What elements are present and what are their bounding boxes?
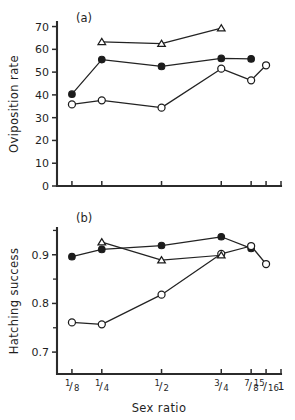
fraction-denominator: 8 <box>74 383 79 393</box>
series-line-open-circle <box>72 246 266 324</box>
x-tick-label-0: 1/8 <box>65 378 79 393</box>
data-point-filled-circle <box>218 55 225 62</box>
data-point-filled-circle <box>69 91 76 98</box>
series-open-triangle <box>98 25 225 47</box>
y-tick-label: 70 <box>35 21 49 34</box>
y-tick-label: 60 <box>35 43 49 56</box>
axis-lines <box>57 22 281 186</box>
data-point-open-circle <box>98 97 105 104</box>
y-tick-label: 20 <box>35 134 49 147</box>
x-tick-label-3: 3/4 <box>214 378 228 393</box>
data-point-open-circle <box>263 62 270 69</box>
chart-svg: 010203040506070(a)Oviposition rate0.70.8… <box>0 0 295 420</box>
fraction-denominator: 4 <box>104 383 109 393</box>
panel-label-a: (a) <box>76 11 92 25</box>
series-open-circle <box>68 243 269 328</box>
y-axis-title-b: Hatching success <box>7 248 21 355</box>
data-point-open-circle <box>263 261 270 268</box>
x-tick-label-2: 1/2 <box>155 378 169 393</box>
series-filled-circle <box>69 55 255 97</box>
data-point-open-circle <box>248 77 255 84</box>
y-tick-label: 0.9 <box>32 249 50 262</box>
y-axis-title-a: Oviposition rate <box>7 55 21 153</box>
y-tick-label: 0.8 <box>32 297 50 310</box>
y-tick-label: 40 <box>35 89 49 102</box>
fraction-slash: / <box>159 380 163 393</box>
axis-lines <box>57 228 281 374</box>
data-point-filled-circle <box>158 63 165 70</box>
y-tick-label: 0.7 <box>32 346 50 359</box>
series-open-circle <box>68 62 269 111</box>
fraction-slash: / <box>99 380 103 393</box>
fraction-slash: / <box>69 380 73 393</box>
fraction-slash: / <box>218 380 222 393</box>
data-point-filled-circle <box>248 56 255 63</box>
data-point-open-circle <box>68 319 75 326</box>
panel-b: 0.70.80.91/81/41/23/47/815/161(b)Hatchin… <box>7 211 285 415</box>
data-point-open-circle <box>68 101 75 108</box>
x-axis-title: Sex ratio <box>132 401 187 415</box>
y-tick-label: 30 <box>35 112 49 125</box>
data-point-filled-circle <box>99 246 106 253</box>
data-point-open-triangle <box>217 25 225 31</box>
fraction-slash: / <box>263 380 267 393</box>
data-point-open-circle <box>248 243 255 250</box>
y-tick-label: 10 <box>35 157 49 170</box>
data-point-open-triangle <box>98 239 106 245</box>
data-point-filled-circle <box>218 233 225 240</box>
y-tick-label: 50 <box>35 66 49 79</box>
data-point-open-circle <box>158 104 165 111</box>
data-point-open-circle <box>98 321 105 328</box>
panel-a: 010203040506070(a)Oviposition rate <box>7 11 281 193</box>
data-point-open-circle <box>218 65 225 72</box>
fraction-denominator: 4 <box>223 383 228 393</box>
panel-label-b: (b) <box>76 211 92 225</box>
x-tick-label-6: 1 <box>278 380 285 393</box>
data-point-filled-circle <box>158 242 165 249</box>
data-point-filled-circle <box>99 56 106 63</box>
y-tick-label: 0 <box>42 180 49 193</box>
fraction-denominator: 2 <box>164 383 169 393</box>
figure-container: 010203040506070(a)Oviposition rate0.70.8… <box>0 0 295 420</box>
fraction-slash: / <box>248 380 252 393</box>
x-tick-label-1: 1/4 <box>95 378 109 393</box>
data-point-filled-circle <box>69 253 76 260</box>
data-point-open-circle <box>158 291 165 298</box>
